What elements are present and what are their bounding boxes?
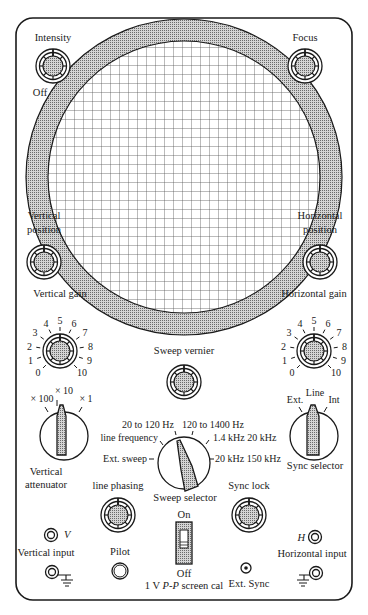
scale-label: 2	[281, 341, 286, 352]
vertical-position-label-2: position	[27, 224, 62, 235]
sync-pos-line: Line	[306, 387, 325, 398]
horizontal-position-label-1: Horizontal	[298, 210, 343, 221]
line-phasing-knob[interactable]	[101, 498, 135, 532]
attenuator-pointer	[57, 405, 66, 455]
switch-on-label: On	[178, 509, 192, 520]
oscilloscope-panel: Intensity Off Focus Vertical position Ho…	[0, 0, 368, 615]
screen-graticule	[48, 41, 320, 313]
sweep-vernier-knob[interactable]	[167, 365, 201, 399]
ext-sync-label: Ext. Sync	[229, 578, 270, 589]
intensity-off-label: Off	[33, 87, 48, 98]
horizontal-position-label-2: position	[303, 224, 338, 235]
scale-label: 10	[331, 367, 341, 378]
sweep-pos-ext-sweep: Ext. sweep	[103, 453, 147, 464]
vertical-input-jack-v[interactable]	[45, 529, 58, 542]
screen-cal-prefix: 1 V	[145, 580, 163, 591]
sync-selector-label: Sync selector	[287, 460, 344, 471]
sweep-pos-20-120hz: 20 to 120 Hz	[122, 419, 175, 430]
scale-label: 1	[28, 355, 33, 366]
vertical-position-knob[interactable]	[27, 245, 61, 279]
sync-lock-knob[interactable]	[232, 498, 266, 532]
attenuator-pos-x100: × 100	[30, 393, 53, 404]
attenuator-pos-x1: × 1	[79, 393, 92, 404]
scale-label: 7	[337, 327, 342, 338]
scale-label: 2	[27, 341, 32, 352]
scale-tick	[36, 347, 40, 348]
sweep-pos-line-frequency: line frequency	[101, 432, 158, 443]
intensity-label: Intensity	[35, 32, 72, 43]
vertical-gain-knob[interactable]	[43, 334, 77, 368]
scale-label: 0	[290, 367, 295, 378]
intensity-knob[interactable]	[36, 49, 70, 83]
vertical-attenuator-label-2: attenuator	[25, 479, 67, 490]
vertical-gain-label: Vertical gain	[33, 288, 87, 299]
scale-label: 6	[326, 318, 331, 329]
pilot-lamp	[112, 563, 128, 579]
scale-label: 5	[312, 315, 317, 326]
screen-cal-suffix: screen cal	[179, 580, 223, 591]
scale-label: 5	[58, 315, 63, 326]
sync-lock-label: Sync lock	[228, 480, 270, 491]
switch-off-label: Off	[177, 568, 192, 579]
horizontal-position-knob[interactable]	[303, 245, 337, 279]
vertical-input-label: Vertical input	[18, 547, 75, 558]
sweep-vernier-label: Sweep vernier	[154, 345, 215, 356]
scale-label: 9	[87, 355, 92, 366]
sync-pos-int: Int	[328, 394, 339, 405]
horizontal-input-jack-h[interactable]	[309, 531, 322, 544]
scale-tick	[290, 347, 294, 348]
screen-cal-caption: 1 V P-P screen cal	[145, 580, 223, 591]
scale-label: 0	[36, 367, 41, 378]
attenuator-pos-x10: × 10	[55, 385, 73, 396]
vertical-position-label-1: Vertical	[28, 210, 61, 221]
scale-label: 1	[282, 355, 287, 366]
scale-label: 8	[88, 341, 93, 352]
scale-label: 6	[72, 318, 77, 329]
scale-label: 8	[342, 341, 347, 352]
scale-label: 10	[77, 367, 87, 378]
scale-tick	[80, 347, 84, 348]
scale-label: 3	[286, 327, 291, 338]
sweep-pos-120-1400hz: 120 to 1400 Hz	[182, 419, 245, 430]
sync-pos-ext: Ext.	[287, 394, 303, 405]
line-phasing-label: line phasing	[92, 480, 144, 491]
scale-tick	[334, 347, 338, 348]
horizontal-input-label: Horizontal input	[277, 548, 346, 559]
scale-label: 9	[341, 355, 346, 366]
sweep-selector-label: Sweep selector	[153, 492, 217, 503]
sync-pointer	[307, 405, 319, 455]
horizontal-input-marker: H	[296, 532, 306, 543]
scale-label: 4	[297, 318, 302, 329]
sweep-pos-1-4khz-20khz: 1.4 kHz 20 kHz	[213, 432, 277, 443]
scale-label: 3	[32, 327, 37, 338]
sweep-pos-20khz-150khz: 20 kHz 150 kHz	[215, 453, 281, 464]
ext-sync-jack[interactable]	[241, 563, 251, 573]
power-switch[interactable]	[176, 522, 192, 564]
screen-cal-pp: P-P	[162, 580, 180, 591]
scale-label: 4	[43, 318, 48, 329]
scale-label: 7	[83, 327, 88, 338]
pilot-label: Pilot	[110, 546, 130, 557]
vertical-attenuator-label-1: Vertical	[30, 466, 63, 477]
horizontal-gain-knob[interactable]	[297, 334, 331, 368]
focus-label: Focus	[292, 32, 317, 43]
focus-knob[interactable]	[288, 49, 322, 83]
horizontal-gain-label: Horizontal gain	[281, 288, 347, 299]
